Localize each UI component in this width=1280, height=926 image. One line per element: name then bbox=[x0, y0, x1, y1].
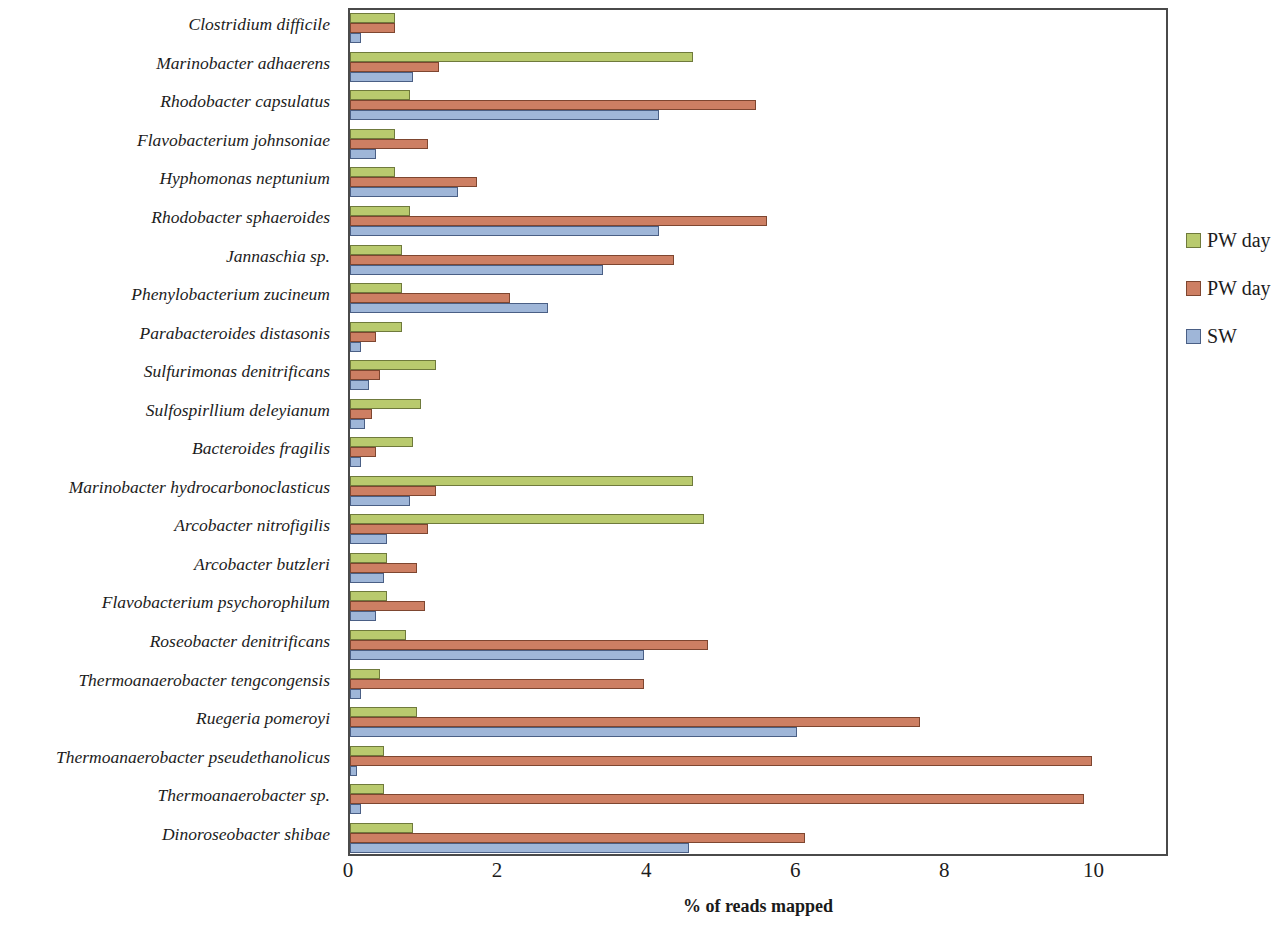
bar-group bbox=[350, 357, 1166, 396]
bar-series-1 bbox=[350, 794, 1084, 804]
legend-swatch-icon bbox=[1186, 281, 1201, 296]
bar-series-2 bbox=[350, 804, 361, 814]
x-axis-tick-labels: 0246810 bbox=[348, 858, 1168, 892]
category-label: Clostridium difficile bbox=[0, 16, 330, 34]
bar-series-2 bbox=[350, 33, 361, 43]
bar-group bbox=[350, 473, 1166, 512]
bar-group bbox=[350, 164, 1166, 203]
bar-series-0 bbox=[350, 52, 693, 62]
bar-group bbox=[350, 781, 1166, 820]
bar-series-1 bbox=[350, 524, 428, 534]
bar-series-0 bbox=[350, 206, 410, 216]
bar-series-0 bbox=[350, 360, 436, 370]
bar-series-2 bbox=[350, 187, 458, 197]
category-label: Rhodobacter sphaeroides bbox=[0, 209, 330, 227]
bar-series-2 bbox=[350, 419, 365, 429]
category-label: Marinobacter hydrocarbonoclasticus bbox=[0, 479, 330, 497]
bar-group bbox=[350, 742, 1166, 781]
category-axis-labels: Clostridium difficileMarinobacter adhaer… bbox=[0, 8, 340, 856]
x-tick-label: 8 bbox=[939, 858, 950, 883]
bar-series-2 bbox=[350, 342, 361, 352]
bar-series-0 bbox=[350, 399, 421, 409]
legend-item[interactable]: SW bbox=[1186, 324, 1280, 348]
category-label: Dinoroseobacter shibae bbox=[0, 826, 330, 844]
bar-series-1 bbox=[350, 409, 372, 419]
bar-group bbox=[350, 627, 1166, 666]
bar-series-2 bbox=[350, 650, 644, 660]
bar-series-2 bbox=[350, 110, 659, 120]
bar-series-0 bbox=[350, 707, 417, 717]
bar-series-2 bbox=[350, 303, 548, 313]
bar-series-1 bbox=[350, 139, 428, 149]
bar-series-1 bbox=[350, 601, 425, 611]
bar-series-2 bbox=[350, 380, 369, 390]
bar-group bbox=[350, 588, 1166, 627]
bar-group bbox=[350, 550, 1166, 589]
bar-series-2 bbox=[350, 766, 357, 776]
bar-series-0 bbox=[350, 823, 413, 833]
bar-series-0 bbox=[350, 129, 395, 139]
bar-series-1 bbox=[350, 833, 805, 843]
category-label: Ruegeria pomeroyi bbox=[0, 710, 330, 728]
category-label: Sulfurimonas denitrificans bbox=[0, 363, 330, 381]
bar-group bbox=[350, 87, 1166, 126]
bar-chart-figure: Clostridium difficileMarinobacter adhaer… bbox=[0, 0, 1280, 926]
bar-series-2 bbox=[350, 534, 387, 544]
category-label: Roseobacter denitrificans bbox=[0, 633, 330, 651]
bar-series-2 bbox=[350, 689, 361, 699]
legend-item[interactable]: PW day bbox=[1186, 276, 1280, 300]
bar-series-1 bbox=[350, 679, 644, 689]
bar-group bbox=[350, 704, 1166, 743]
bar-series-1 bbox=[350, 177, 477, 187]
bar-group bbox=[350, 280, 1166, 319]
bar-series-1 bbox=[350, 563, 417, 573]
bar-series-2 bbox=[350, 457, 361, 467]
bar-series-0 bbox=[350, 514, 704, 524]
bar-series-0 bbox=[350, 13, 395, 23]
legend-swatch-icon bbox=[1186, 329, 1201, 344]
bar-series-1 bbox=[350, 447, 376, 457]
legend-item[interactable]: PW day bbox=[1186, 228, 1280, 252]
bar-series-0 bbox=[350, 553, 387, 563]
bar-series-1 bbox=[350, 332, 376, 342]
x-tick-label: 2 bbox=[492, 858, 503, 883]
category-label: Jannaschia sp. bbox=[0, 248, 330, 266]
bar-series-1 bbox=[350, 756, 1092, 766]
legend-swatch-icon bbox=[1186, 233, 1201, 248]
bar-series-0 bbox=[350, 630, 406, 640]
category-label: Thermoanaerobacter pseudethanolicus bbox=[0, 749, 330, 767]
bar-group bbox=[350, 203, 1166, 242]
bar-group bbox=[350, 241, 1166, 280]
plot-area bbox=[348, 8, 1168, 856]
legend-label: PW day bbox=[1207, 229, 1271, 252]
bar-series-0 bbox=[350, 437, 413, 447]
bar-series-2 bbox=[350, 843, 689, 853]
bar-series-1 bbox=[350, 23, 395, 33]
legend-label: PW day bbox=[1207, 277, 1271, 300]
bar-series-1 bbox=[350, 216, 767, 226]
x-tick-label: 4 bbox=[641, 858, 652, 883]
bar-series-2 bbox=[350, 265, 603, 275]
bar-series-0 bbox=[350, 476, 693, 486]
bar-series-2 bbox=[350, 72, 413, 82]
category-label: Marinobacter adhaerens bbox=[0, 55, 330, 73]
bar-series-1 bbox=[350, 370, 380, 380]
category-label: Phenylobacterium zucineum bbox=[0, 286, 330, 304]
bar-series-1 bbox=[350, 640, 708, 650]
x-tick-label: 0 bbox=[343, 858, 354, 883]
bar-group bbox=[350, 126, 1166, 165]
bar-group bbox=[350, 434, 1166, 473]
category-label: Arcobacter butzleri bbox=[0, 556, 330, 574]
bar-series-2 bbox=[350, 611, 376, 621]
category-label: Sulfospirllium deleyianum bbox=[0, 402, 330, 420]
category-label: Flavobacterium johnsoniae bbox=[0, 132, 330, 150]
bar-series-2 bbox=[350, 496, 410, 506]
bar-series-1 bbox=[350, 62, 439, 72]
bar-series-2 bbox=[350, 573, 384, 583]
bar-series-2 bbox=[350, 727, 797, 737]
category-label: Bacteroides fragilis bbox=[0, 440, 330, 458]
category-label: Flavobacterium psychorophilum bbox=[0, 594, 330, 612]
category-label: Thermoanaerobacter sp. bbox=[0, 787, 330, 805]
bar-series-0 bbox=[350, 784, 384, 794]
bar-group bbox=[350, 511, 1166, 550]
